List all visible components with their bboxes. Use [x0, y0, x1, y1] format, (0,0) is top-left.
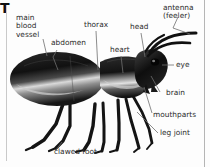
leader-thorax — [96, 31, 98, 70]
label-mouthparts: mouthparts — [153, 111, 196, 119]
label-heart: heart — [110, 46, 130, 54]
label-brain: brain — [166, 89, 185, 97]
label-leg-joint: leg joint — [160, 129, 190, 137]
leader-heart — [121, 56, 123, 73]
leader-main-blood-vessel — [43, 39, 47, 56]
label-thorax: thorax — [84, 21, 108, 29]
leader-abdomen — [53, 50, 58, 70]
label-clawed-foot: clawed foot — [54, 148, 97, 156]
leader-head — [141, 33, 145, 57]
ant-anatomy-figure: T — [0, 0, 210, 167]
label-eye: eye — [176, 61, 189, 69]
label-head: head — [130, 23, 148, 31]
label-main-blood-vessel: main blood vessel — [16, 14, 39, 39]
label-abdomen: abdomen — [51, 39, 86, 47]
leader-mouthparts — [144, 87, 152, 113]
leader-brain — [151, 76, 160, 92]
label-antenna-feeler: antenna (feeler) — [163, 4, 194, 21]
